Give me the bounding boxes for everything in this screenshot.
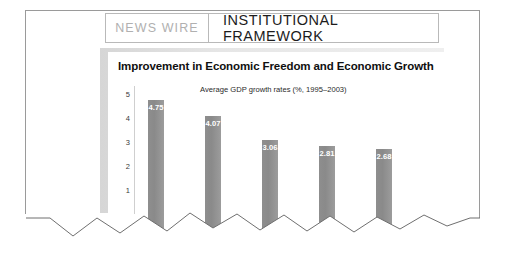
bar: 2.68: [376, 149, 392, 236]
bar-value-label: 2.68: [374, 152, 394, 161]
bar-value-label: 3.06: [260, 143, 280, 152]
news-wire-header: NEWS WIRE INSTITUTIONAL FRAMEWORK: [105, 13, 439, 43]
kicker-label: NEWS WIRE: [106, 14, 209, 42]
bar: 4.07: [205, 116, 221, 236]
bar-value-label: 4.07: [203, 119, 223, 128]
y-axis-tick: 3: [112, 137, 130, 146]
chart-title: Improvement in Economic Freedom and Econ…: [118, 60, 434, 72]
bar: 4.75: [148, 100, 164, 236]
section-title: INSTITUTIONAL FRAMEWORK: [209, 14, 438, 42]
y-axis-tick: 5: [112, 89, 130, 98]
bar: 3.06: [262, 140, 278, 236]
y-axis-tick: 4: [112, 113, 130, 122]
y-axis-tick: 2: [112, 161, 130, 170]
bar-value-label: 4.75: [146, 103, 166, 112]
bar-value-label: 2.81: [317, 149, 337, 158]
chart-card: Improvement in Economic Freedom and Econ…: [108, 52, 444, 214]
y-axis-line: [134, 86, 135, 214]
bar-chart-plot: 54321 4.754.073.062.812.68: [134, 84, 434, 214]
y-axis-tick: 1: [112, 185, 130, 194]
bar: 2.81: [319, 146, 335, 236]
